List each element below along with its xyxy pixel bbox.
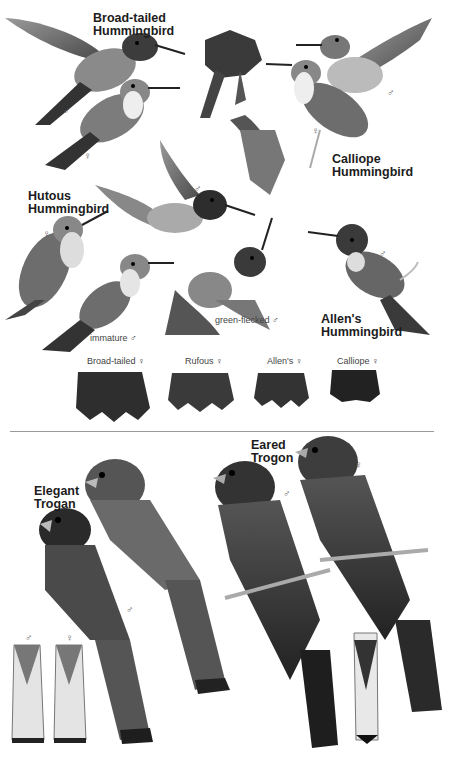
- label-elegant-trogon: Elegant Trogan: [34, 485, 79, 511]
- tail-fan-allens: [254, 373, 309, 408]
- sex-mark-male: ♂: [387, 87, 395, 98]
- elegant-male-undertail-illustration: [12, 645, 44, 743]
- sex-mark-female: ♀: [43, 228, 51, 239]
- label-rufous-hummingbird: Hutous Hummingbird: [28, 190, 109, 216]
- species-name-line2: Hummingbird: [28, 203, 109, 216]
- sex-mark-male: ♂: [379, 248, 387, 259]
- broad-tailed-female-illustration: [45, 79, 180, 170]
- sex-mark-male: ♂: [63, 105, 71, 116]
- sex-mark-male: ♂: [126, 604, 134, 615]
- sex-mark-female: ♀: [136, 475, 144, 486]
- sex-mark-male: ♂: [194, 183, 202, 194]
- note-immature-male: immature ♂: [90, 333, 137, 343]
- flower-illustration: [200, 30, 285, 195]
- sex-mark-female: ♀: [84, 150, 92, 161]
- species-name-line2: Hummingbird: [93, 25, 174, 38]
- tail-label-rufous: Rufous ♀: [185, 356, 223, 366]
- species-name-line2: Hummingbird: [332, 166, 413, 179]
- label-calliope-hummingbird: Calliope Hummingbird: [332, 153, 413, 179]
- sex-mark-female: ♀: [312, 125, 320, 136]
- species-name-line2: Hummingbird: [321, 326, 402, 339]
- elegant-female-undertail-illustration: [54, 645, 86, 743]
- tail-fan-broad-tailed: [76, 372, 150, 422]
- rufous-male-illustration: [95, 140, 255, 233]
- sex-mark-male: ♂: [25, 632, 33, 643]
- eared-undertail-illustration: [354, 633, 378, 744]
- tail-label-broad-tailed: Broad-tailed ♀: [87, 356, 145, 366]
- tail-label-allens: Allen's ♀: [267, 356, 302, 366]
- tail-fan-calliope: [330, 370, 380, 402]
- sex-mark-female: ♀: [355, 459, 363, 470]
- note-green-flecked-male: green-flecked ♂: [215, 315, 279, 325]
- tail-fan-rufous: [168, 373, 234, 412]
- label-broad-tailed-hummingbird: Broad-tailed Hummingbird: [93, 12, 174, 38]
- species-name-line2: Trogan: [34, 498, 79, 511]
- label-eared-trogon: Eared Trogon: [251, 439, 293, 465]
- tail-label-calliope: Calliope ♀: [337, 356, 379, 366]
- species-name-line2: Trogon: [251, 452, 293, 465]
- sex-mark-male: ♂: [283, 488, 291, 499]
- sex-mark-female: ♀: [66, 632, 74, 643]
- label-allens-hummingbird: Allen's Hummingbird: [321, 313, 402, 339]
- section-divider: [10, 431, 434, 432]
